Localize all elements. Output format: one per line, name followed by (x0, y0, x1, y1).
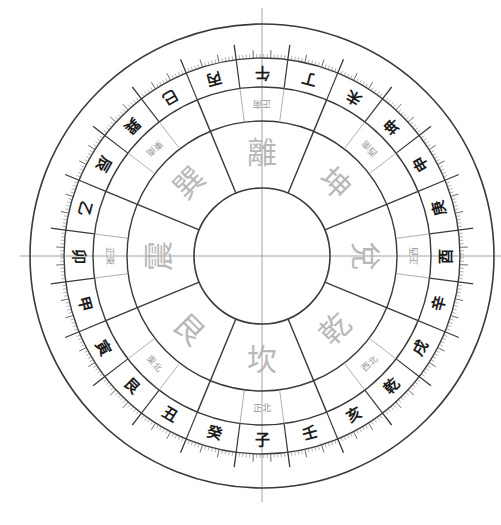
tick (365, 84, 367, 87)
tick (427, 145, 430, 147)
tick (134, 409, 137, 412)
tick (151, 88, 153, 91)
tick (425, 142, 428, 144)
tick (301, 450, 302, 454)
mountain-divider (418, 321, 445, 332)
mountain-divider (105, 359, 128, 377)
tick (151, 82, 155, 89)
tick (341, 438, 343, 442)
tick (123, 104, 128, 110)
tick (331, 441, 332, 445)
mountain-label: 巽 (121, 115, 144, 138)
tick (388, 409, 391, 412)
tick (181, 71, 183, 75)
label-cell-divider (240, 88, 244, 122)
tick (331, 67, 332, 71)
tick (455, 299, 463, 301)
tick (90, 150, 93, 152)
tick (427, 365, 430, 367)
trigram-name: 艮 (166, 306, 212, 352)
tick (79, 161, 86, 165)
direction-label: 正北 (253, 403, 271, 413)
tick (439, 166, 443, 168)
tick (413, 385, 416, 388)
tick (94, 365, 97, 367)
direction-label: 正南 (253, 99, 271, 110)
tick (66, 316, 74, 318)
tick (383, 413, 392, 425)
tick (371, 421, 373, 424)
tick (374, 419, 376, 422)
tick (447, 185, 451, 186)
mountain-label: 戌 (409, 337, 432, 359)
tick (166, 78, 168, 82)
tick (106, 382, 109, 385)
mountain-divider (327, 73, 338, 100)
tick (356, 430, 358, 434)
mountain-label: 寅 (92, 337, 115, 359)
tick (341, 71, 343, 75)
tick (132, 87, 141, 99)
tick (67, 202, 71, 203)
tick (403, 114, 406, 117)
tick (128, 105, 131, 108)
tick (118, 395, 121, 398)
direction-label: 正西 (409, 247, 419, 265)
tick (72, 189, 76, 190)
mountain-divider (79, 180, 106, 191)
tick (81, 166, 85, 168)
tick (123, 400, 126, 403)
tick (396, 104, 401, 110)
tick (205, 62, 206, 66)
tick (434, 353, 437, 355)
tick (134, 100, 137, 103)
trigram-name: 坤 (312, 160, 358, 206)
tick (142, 94, 144, 97)
tick (74, 329, 78, 330)
mountain-divider (186, 412, 197, 439)
tick (123, 109, 126, 112)
tick (318, 62, 319, 66)
mountain-label: 乙 (74, 199, 95, 218)
mountain-label: 巳 (159, 86, 181, 109)
tick (88, 362, 95, 366)
tick (396, 402, 401, 408)
tick (195, 66, 196, 70)
mountain-label: 午 (255, 64, 270, 82)
tick (208, 61, 209, 65)
tick (456, 295, 460, 296)
mountain-divider (66, 278, 95, 282)
tick (385, 411, 387, 414)
mountain-label: 未 (342, 85, 366, 109)
tick (444, 175, 448, 177)
tick (393, 105, 396, 108)
tick (434, 157, 437, 159)
tick (431, 150, 434, 152)
mountain-label: 丑 (159, 403, 181, 426)
mountain-label: 酉 (437, 249, 455, 264)
tick (178, 436, 180, 440)
tick (100, 136, 103, 138)
tick (131, 102, 134, 105)
tick (191, 441, 192, 445)
tick (458, 282, 473, 284)
tick (159, 82, 161, 85)
tick (145, 417, 147, 420)
tick (417, 130, 420, 132)
mountain-divider (186, 73, 197, 100)
label-cell-divider (94, 274, 128, 278)
tick (393, 404, 396, 407)
tick (446, 182, 450, 183)
tick (438, 347, 445, 351)
tick (148, 419, 150, 422)
tick (458, 228, 473, 230)
tick (191, 67, 192, 71)
tick (96, 142, 99, 144)
tick (377, 417, 379, 420)
tick (106, 128, 109, 131)
mountain-divider (79, 321, 106, 332)
tick (88, 153, 91, 155)
tick (120, 112, 123, 115)
tick (410, 122, 413, 125)
tick (136, 98, 138, 101)
